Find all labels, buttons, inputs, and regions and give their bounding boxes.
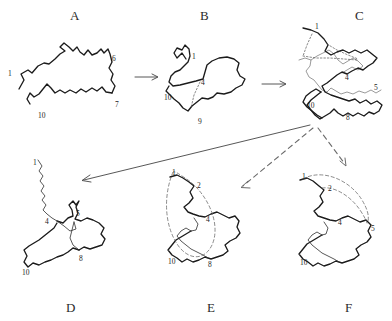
arrow-a-to-b — [135, 74, 158, 80]
panel-a-strand-lower — [27, 84, 112, 104]
panel-b-label-4: 4 — [201, 78, 205, 87]
panel-e-internal-2 — [191, 218, 198, 231]
panel-f-internal-2 — [322, 222, 328, 235]
panel-d-label-10: 10 — [22, 268, 30, 277]
arrow-c-to-d — [82, 125, 310, 182]
panel-c-label-8: 8 — [346, 113, 350, 122]
panel-e-label-1: 1 — [172, 168, 176, 177]
figure-canvas — [0, 0, 392, 321]
panel-a-chain — [19, 43, 115, 104]
panel-e-label-10: 10 — [168, 257, 176, 266]
panel-letter-f: F — [345, 300, 353, 316]
panel-a-label-6: 6 — [112, 54, 116, 63]
panel-d-internal-2 — [70, 222, 79, 250]
panel-d-chain — [24, 160, 105, 267]
panel-d-label-1: 1 — [33, 158, 37, 167]
panel-f-label-1: 1 — [302, 172, 306, 181]
panel-f-chain — [299, 175, 371, 266]
panel-c-shadow-chain — [299, 58, 381, 94]
panel-e-backbone — [168, 175, 240, 262]
panel-c-label-1: 1 — [315, 22, 319, 31]
panel-e-label-8: 8 — [208, 260, 212, 269]
panel-d-label-4: 4 — [45, 217, 49, 226]
arrow-c-to-f — [318, 128, 346, 166]
panel-b-label-9: 9 — [198, 117, 202, 126]
panel-b-backbone — [166, 45, 245, 111]
panel-d-label-8: 8 — [79, 254, 83, 263]
panel-c-contact-dotted-1 — [303, 34, 312, 56]
figure-root: A B C D E F 1 6 7 10 1 4 10 9 1 4 5 10 8… — [0, 0, 392, 321]
panel-f-label-2: 2 — [328, 184, 332, 193]
panel-f-label-5: 5 — [371, 224, 375, 233]
panel-f-internal — [308, 232, 339, 262]
panel-b-label-10: 10 — [164, 93, 172, 102]
panel-c-label-10: 10 — [307, 101, 315, 110]
panel-c-label-5: 5 — [374, 83, 378, 92]
panel-a-label-7: 7 — [115, 100, 119, 109]
panel-f-loop-arc-outer — [303, 175, 368, 222]
panel-e-label-2: 2 — [197, 181, 201, 190]
panel-a-strand-upper — [19, 43, 115, 93]
panel-e-internal — [177, 228, 208, 258]
panel-d-label-5: 5 — [76, 209, 80, 218]
panel-f-backbone — [299, 178, 371, 266]
panel-e-chain — [167, 172, 240, 262]
panel-d-tail — [38, 160, 57, 221]
panel-letter-c: C — [355, 8, 364, 24]
panel-e-label-4: 4 — [206, 215, 210, 224]
arrow-b-to-c — [262, 81, 286, 87]
panel-d-core-lower — [24, 223, 79, 267]
panel-f-label-4: 4 — [338, 218, 342, 227]
panel-letter-a: A — [70, 8, 80, 24]
panel-c-label-4: 4 — [345, 73, 349, 82]
panel-letter-d: D — [66, 300, 76, 316]
panel-b-chain — [166, 45, 245, 111]
panel-f-label-10: 10 — [300, 258, 308, 267]
panel-letter-b: B — [200, 8, 209, 24]
panel-d-core-upper — [57, 201, 105, 250]
panel-a-label-10: 10 — [38, 111, 46, 120]
panel-b-contact-4-9 — [191, 82, 200, 108]
panel-letter-e: E — [207, 300, 215, 316]
panel-b-label-1: 1 — [192, 52, 196, 61]
panel-a-label-1: 1 — [8, 69, 12, 78]
